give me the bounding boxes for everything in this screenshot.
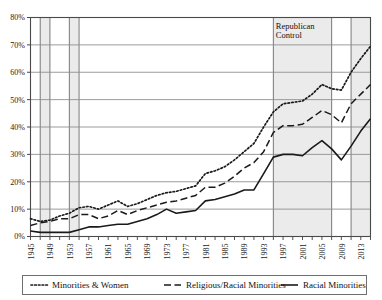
x-axis-label: 1985 [221,244,230,260]
legend-label: Racial Minorities [303,280,366,290]
x-axis-label: 2013 [357,244,366,260]
chart-container: 0%10%20%30%40%50%60%70%80%19451949195319… [0,0,382,300]
y-axis-label: 50% [10,96,25,105]
x-axis-label: 1961 [104,244,113,260]
y-axis-label: 30% [10,150,25,159]
x-axis-label: 1997 [279,244,288,260]
y-axis-label: 70% [10,41,25,50]
y-axis-label: 60% [10,68,25,77]
x-axis-label: 1973 [163,244,172,260]
x-axis-label: 1965 [124,244,133,260]
y-axis-label: 0% [14,232,25,241]
y-axis-label: 20% [10,178,25,187]
x-axis-label: 1969 [143,244,152,260]
x-axis-label: 1981 [202,244,211,260]
x-axis-label: 2001 [299,244,308,260]
x-axis-label: 1945 [27,244,36,260]
y-axis-label: 10% [10,205,25,214]
y-axis-label: 40% [10,123,25,132]
x-axis-label: 2009 [338,244,347,260]
x-axis-label: 1953 [66,244,75,260]
x-axis-label: 1989 [240,244,249,260]
x-axis-label: 1977 [182,244,191,260]
legend-label: Minorities & Women [52,280,129,290]
annotation-line-2: Control [276,30,303,40]
legend: Minorities & WomenReligious/Racial Minor… [23,276,367,295]
x-axis-label: 1993 [260,244,269,260]
x-axis-label: 2005 [318,244,327,260]
y-axis-label: 80% [10,13,25,22]
line-chart: 0%10%20%30%40%50%60%70%80%19451949195319… [0,0,382,300]
legend-label: Religious/Racial Minorities [186,280,286,290]
x-axis-label: 1949 [46,244,55,260]
x-axis-label: 1957 [85,244,94,260]
